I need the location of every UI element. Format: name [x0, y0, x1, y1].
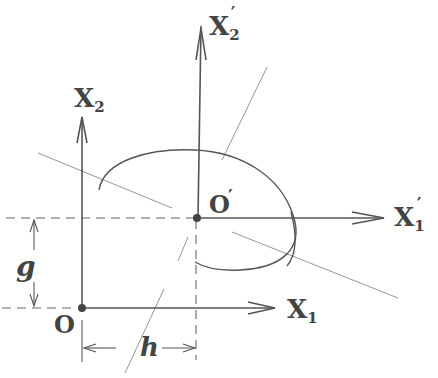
origin-label: O — [54, 310, 75, 339]
g-dimension-label: g — [16, 250, 36, 283]
rotated-axis-steep-upper — [222, 67, 267, 160]
origin-prime-label: O′ — [209, 186, 233, 219]
x1-prime-axis-label: X1′ — [394, 194, 425, 235]
rotated-axis-steep-mid — [178, 237, 188, 261]
x2-prime-axis-label: X2′ — [209, 3, 240, 44]
dimension-h — [82, 320, 195, 362]
rotated-axis-long-lower — [232, 232, 398, 298]
origin-point — [78, 304, 86, 312]
coordinate-translation-diagram: X2 X2′ X1 X1′ O O′ g h — [0, 0, 438, 378]
x2-prime-axis — [198, 26, 201, 218]
origin-prime-point — [193, 214, 201, 222]
rotated-axis-long-upper — [38, 153, 172, 208]
x2-axis-label: X2 — [74, 83, 105, 116]
h-dimension-label: h — [140, 332, 159, 362]
x1-axis-label: X1 — [287, 294, 318, 327]
original-frame — [77, 117, 275, 314]
